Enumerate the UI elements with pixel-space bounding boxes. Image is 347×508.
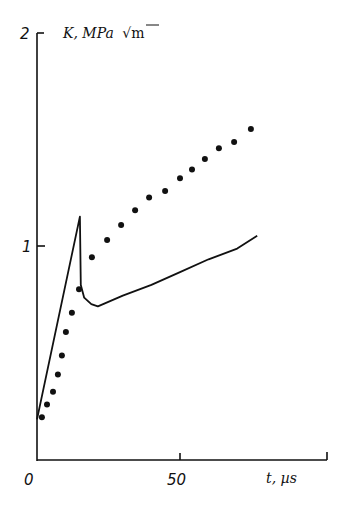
x-tick-label-50: 50 [167, 471, 186, 489]
data-point [162, 188, 168, 194]
data-point [146, 194, 152, 200]
data-point [39, 414, 45, 420]
y-tick-label-2: 2 [20, 25, 30, 43]
data-point [231, 139, 237, 145]
data-point [69, 310, 75, 316]
data-point [189, 167, 195, 173]
data-point [44, 402, 50, 408]
data-point [63, 329, 69, 335]
x-axis-label: t, µs [266, 470, 297, 486]
data-point [59, 352, 65, 358]
data-point [132, 207, 138, 213]
data-point [76, 286, 82, 292]
data-point [248, 126, 254, 132]
solid-curve [37, 217, 257, 420]
data-point [216, 145, 222, 151]
data-point [50, 389, 56, 395]
data-point [202, 156, 208, 162]
data-point [104, 237, 110, 243]
data-point [118, 222, 124, 228]
dotted-series [39, 126, 254, 420]
data-point [177, 175, 183, 181]
y-axis-label: K, MPa √m [62, 25, 145, 41]
y-tick-label-1: 1 [22, 238, 32, 256]
y-axis-label-unit: √m [122, 25, 144, 41]
data-point [55, 372, 61, 378]
solid-curve-path [37, 217, 257, 420]
data-point [89, 254, 95, 260]
x-tick-label-0: 0 [24, 471, 34, 489]
chart-canvas: 2 1 0 50 K, MPa √m t, µs [0, 0, 347, 508]
y-axis-label-text: K, MPa [62, 25, 114, 41]
